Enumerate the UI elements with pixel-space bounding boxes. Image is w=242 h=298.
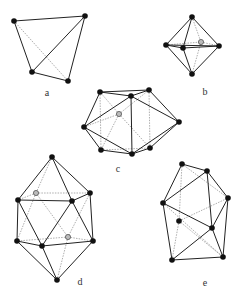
vertex — [87, 190, 93, 196]
polyhedron-e — [160, 161, 231, 263]
edge — [42, 241, 93, 246]
vertex — [39, 243, 45, 249]
vertex — [98, 147, 104, 153]
edge — [183, 48, 192, 74]
edge — [192, 17, 219, 46]
vertex — [82, 13, 88, 19]
edge — [18, 200, 42, 246]
figure-label-e: e — [203, 277, 207, 288]
hidden-edge — [68, 237, 93, 241]
vertex — [225, 195, 231, 201]
vertex — [69, 198, 75, 204]
vertex — [189, 14, 195, 20]
vertex — [209, 225, 215, 231]
edge — [100, 90, 149, 92]
polyhedron-a — [11, 13, 88, 84]
vertex — [65, 78, 71, 84]
hidden-edge — [14, 21, 68, 81]
figure-label-b: b — [203, 86, 208, 97]
edge — [14, 21, 32, 72]
edge — [149, 90, 179, 122]
vertex — [97, 89, 103, 95]
vertex — [29, 69, 35, 75]
polyhedron-c — [81, 87, 182, 157]
vertex — [189, 71, 195, 77]
vertex — [128, 93, 134, 99]
vertex — [11, 18, 17, 24]
edge — [192, 46, 219, 74]
hidden-edge — [17, 237, 68, 241]
vertex — [129, 151, 135, 157]
edge — [84, 127, 101, 150]
polyhedron-b — [163, 14, 222, 77]
hidden-edge — [179, 198, 228, 221]
edge — [166, 45, 219, 46]
vertex — [147, 145, 153, 151]
vertex — [81, 124, 87, 130]
hidden-edge — [192, 17, 201, 42]
edge — [42, 246, 57, 280]
edge — [90, 193, 93, 241]
edge — [84, 127, 132, 154]
edge — [52, 157, 90, 193]
edge — [132, 122, 179, 154]
vertex — [90, 238, 96, 244]
edge — [32, 72, 68, 81]
hidden-edge — [149, 90, 150, 148]
polyhedra-diagram — [0, 0, 242, 298]
polyhedron-d — [14, 154, 96, 283]
vertex — [49, 154, 55, 160]
vertex — [216, 43, 222, 49]
hidden-edge — [172, 221, 179, 260]
edge — [172, 228, 212, 260]
edge — [163, 164, 182, 203]
hidden-vertex — [65, 234, 70, 239]
edge — [207, 171, 212, 228]
vertex — [15, 197, 21, 203]
vertex — [169, 257, 175, 263]
edge — [100, 92, 131, 96]
vertex — [14, 238, 20, 244]
edge — [150, 122, 179, 148]
edge — [17, 241, 57, 280]
vertex — [160, 200, 166, 206]
edge — [18, 200, 72, 201]
edge — [68, 16, 85, 81]
edge — [17, 200, 18, 241]
figure-label-d: d — [78, 276, 83, 287]
edge — [163, 203, 212, 228]
edge — [72, 193, 90, 201]
edge — [14, 16, 85, 21]
edge — [163, 171, 207, 203]
hidden-vertex — [198, 39, 203, 44]
edge — [172, 257, 223, 260]
edge — [131, 96, 132, 154]
edge — [52, 157, 72, 201]
hidden-vertex — [33, 190, 38, 195]
edge — [166, 45, 192, 74]
hidden-edge — [101, 148, 150, 150]
edge — [131, 96, 179, 122]
edge — [182, 164, 207, 171]
vertex — [176, 119, 182, 125]
vertex — [163, 42, 169, 48]
vertex — [176, 218, 182, 224]
vertex — [146, 87, 152, 93]
hidden-edge — [119, 114, 150, 148]
edge — [72, 201, 93, 241]
vertex — [179, 161, 185, 167]
edge — [207, 171, 228, 198]
hidden-vertex — [116, 111, 121, 116]
vertex — [180, 45, 186, 51]
hidden-edge — [163, 203, 223, 257]
edge — [57, 241, 93, 280]
edge — [163, 203, 172, 260]
vertex — [204, 168, 210, 174]
vertex — [54, 277, 60, 283]
figure-label-a: a — [45, 87, 49, 98]
vertex — [220, 254, 226, 260]
hidden-edge — [119, 90, 149, 114]
edge — [32, 16, 85, 72]
edge — [101, 150, 132, 154]
figure-label-c: c — [116, 163, 120, 174]
